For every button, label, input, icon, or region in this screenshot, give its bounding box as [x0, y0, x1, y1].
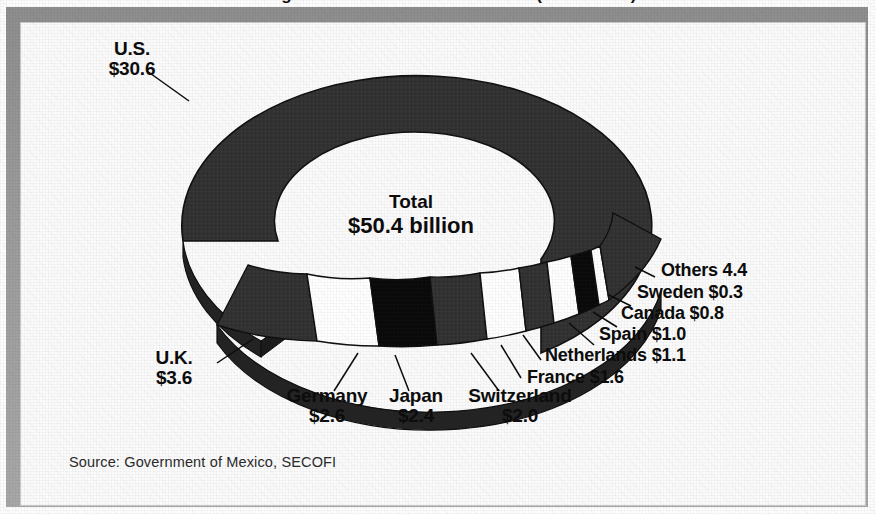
chart-stage: U.S. $30.6 U.K. $3.6 Germany $2.6 Japan … [21, 23, 865, 505]
callout-switzerland-value: $2.0 [445, 406, 595, 426]
center-total-value: $50.4 billion [311, 213, 511, 239]
callout-switzerland-name: Switzerland [445, 386, 595, 406]
slice-uk[interactable] [217, 265, 317, 341]
callout-netherlands: Netherlands $1.1 [545, 346, 686, 365]
leader-netherlands [523, 335, 541, 360]
chart-frame-border: U.S. $30.6 U.K. $3.6 Germany $2.6 Japan … [6, 7, 868, 507]
callout-sweden: Sweden $0.3 [637, 283, 743, 302]
center-total-caption: Total [311, 191, 511, 213]
leader-france [501, 345, 521, 378]
source-note: Source: Government of Mexico, SECOFI [69, 454, 336, 470]
slice-germany[interactable] [307, 274, 379, 346]
callout-france: France $1.6 [527, 368, 624, 387]
slice-switzerland[interactable] [430, 273, 487, 345]
callout-us-value: $30.6 [77, 59, 187, 79]
callout-us: U.S. $30.6 [77, 39, 187, 79]
callout-uk-name: U.K. [129, 348, 219, 368]
callout-uk: U.K. $3.6 [129, 348, 219, 388]
callout-others: Others 4.4 [661, 261, 747, 280]
slice-japan[interactable] [370, 277, 437, 347]
document-title-cropped: Foreign Direct Investment in Mexico (cum… [0, 0, 876, 7]
slice-france[interactable] [480, 268, 526, 339]
callout-spain: Spain $1.0 [599, 325, 686, 344]
callout-us-name: U.S. [77, 39, 187, 59]
chart-page: Foreign Direct Investment in Mexico (cum… [0, 0, 876, 514]
callout-switzerland: Switzerland $2.0 [445, 386, 595, 426]
center-total-label: Total $50.4 billion [311, 191, 511, 239]
document-title-text: Foreign Direct Investment in Mexico (cum… [0, 0, 876, 5]
chart-frame-inner: U.S. $30.6 U.K. $3.6 Germany $2.6 Japan … [20, 22, 866, 506]
callout-canada: Canada $0.8 [621, 304, 724, 323]
callout-uk-value: $3.6 [129, 368, 219, 388]
